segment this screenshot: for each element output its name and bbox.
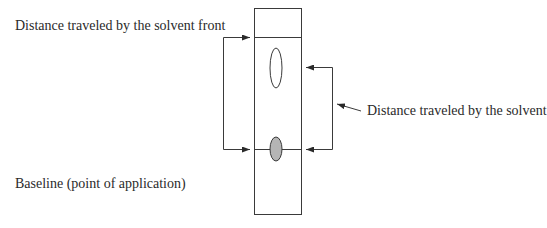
migrated-spot [270, 48, 282, 88]
solvent-front-bracket [224, 38, 251, 150]
applied-spot [270, 137, 282, 161]
pointer-arrow-icon [337, 104, 361, 111]
tlc-plate [255, 9, 302, 215]
solvent-distance-bracket [306, 68, 333, 150]
